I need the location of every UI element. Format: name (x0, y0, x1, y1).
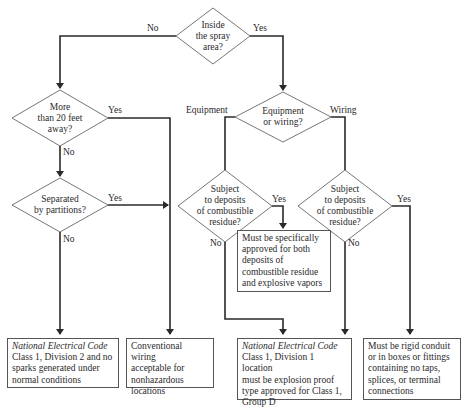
text-line: than 20 feet (20, 113, 100, 124)
decision-deposits-equip-text: Subject to deposits of combustible resid… (185, 184, 265, 228)
text-line: Inside (183, 20, 243, 31)
text-line: or wiring? (245, 117, 321, 128)
text-line: and explosive vapors (242, 278, 326, 289)
text-line: normal conditions (12, 375, 114, 386)
label-deposits-wiring-yes: Yes (397, 194, 411, 205)
text-line: locations (131, 386, 209, 397)
text-line: type approved for Class 1, (242, 386, 347, 397)
decision-deposits-wiring-text: Subject to deposits of combustible resid… (305, 184, 385, 228)
text-line: area? (183, 42, 243, 53)
outcome-conventional: Conventional wiring acceptable for nonha… (126, 338, 214, 388)
label-spray-no: No (147, 23, 159, 34)
text-line: Must be rigid conduit (368, 341, 456, 352)
outcome-div1: National Electrical Code Class 1, Divisi… (237, 338, 352, 400)
outcome-div2: National Electrical Code Class 1, Divisi… (7, 338, 119, 388)
label-deposits-equip-no: No (210, 238, 222, 249)
text-line: Class 1, Division 2 and no (12, 352, 114, 363)
label-spray-yes: Yes (253, 23, 267, 34)
text-line: by partitions? (15, 205, 105, 216)
text-line: approved for both (242, 244, 326, 255)
text-line: or in boxes or fittings (368, 352, 456, 363)
decision-equip-wiring-text: Equipment or wiring? (245, 106, 321, 128)
box-title: National Electrical Code (12, 341, 114, 352)
text-line: must be explosion proof (242, 375, 347, 386)
text-line: Must be specifically (242, 233, 326, 244)
text-line: residue? (185, 217, 265, 228)
text-line: Subject (185, 184, 265, 195)
text-line: of combustible (185, 206, 265, 217)
text-line: the spray (183, 31, 243, 42)
text-line: sparks generated under (12, 363, 114, 374)
label-deposits-equip-yes: Yes (272, 194, 286, 205)
text-line: nonhazardous (131, 375, 209, 386)
label-deposits-wiring-no: No (348, 238, 360, 249)
text-line: splices, or terminal (368, 375, 456, 386)
text-line: containing no taps, (368, 363, 456, 374)
text-line: deposits of (242, 255, 326, 266)
text-line: Class 1, Division 1 location (242, 352, 347, 374)
text-line: to deposits (185, 195, 265, 206)
label-distance-yes: Yes (108, 105, 122, 116)
outcome-rigid: Must be rigid conduit or in boxes or fit… (363, 338, 461, 400)
decision-distance-text: More than 20 feet away? (20, 102, 100, 135)
text-line: Subject (305, 184, 385, 195)
decision-spray-text: Inside the spray area? (183, 20, 243, 53)
text-line: Equipment (245, 106, 321, 117)
text-line: acceptable for (131, 363, 209, 374)
decision-partitions-text: Separated by partitions? (15, 194, 105, 216)
label-wiring: Wiring (330, 105, 357, 116)
box-title: National Electrical Code (242, 341, 347, 352)
text-line: Separated (15, 194, 105, 205)
text-line: connections (368, 386, 456, 397)
text-line: combustible residue (242, 267, 326, 278)
outcome-approved-both: Must be specifically approved for both d… (237, 230, 331, 292)
text-line: Group D (242, 397, 347, 408)
label-distance-no: No (63, 147, 75, 158)
text-line: Conventional wiring (131, 341, 209, 363)
text-line: away? (20, 124, 100, 135)
text-line: residue? (305, 217, 385, 228)
label-partitions-yes: Yes (108, 193, 122, 204)
text-line: to deposits (305, 195, 385, 206)
text-line: More (20, 102, 100, 113)
label-equipment: Equipment (186, 105, 228, 116)
label-partitions-no: No (63, 234, 75, 245)
text-line: of combustible (305, 206, 385, 217)
